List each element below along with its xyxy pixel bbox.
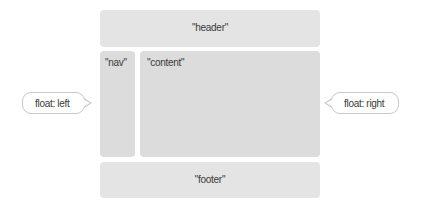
- content-label: "content": [147, 57, 184, 68]
- content-block: "content": [140, 51, 320, 157]
- header-block: "header": [100, 10, 320, 47]
- callout-pointer-icon: [84, 98, 92, 108]
- float-right-callout: float: right: [331, 92, 399, 114]
- nav-block: "nav": [100, 51, 135, 157]
- header-label: "header": [100, 22, 320, 33]
- footer-block: "footer": [100, 162, 320, 198]
- nav-label: "nav": [105, 57, 127, 68]
- float-right-label: float: right: [344, 98, 384, 109]
- callout-pointer-icon: [324, 98, 332, 108]
- float-left-label: float: left: [35, 98, 70, 109]
- float-left-callout: float: left: [22, 92, 85, 114]
- footer-label: "footer": [100, 174, 320, 185]
